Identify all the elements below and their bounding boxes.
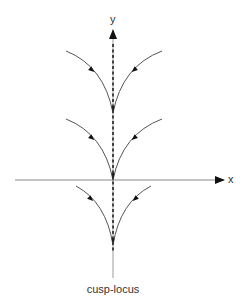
- cusp-phase-portrait: [0, 0, 243, 303]
- x-axis-label: x: [228, 174, 234, 185]
- cusp-locus-label: cusp-locus: [87, 284, 140, 295]
- flow-arrow-icon: [88, 134, 96, 142]
- cusp-family-middle: [66, 119, 162, 180]
- trajectory-upper-right: [113, 51, 162, 113]
- cusp-point-lower: [112, 238, 115, 246]
- flow-arrow-icon: [131, 195, 139, 203]
- trajectory-lower-right: [113, 186, 151, 245]
- flow-arrow-icon: [87, 195, 95, 203]
- y-axis-label: y: [110, 14, 116, 25]
- trajectory-middle-left: [66, 119, 113, 180]
- flow-arrow-icon: [88, 66, 96, 74]
- cusp-family-upper: [66, 51, 162, 113]
- trajectory-upper-left: [66, 51, 113, 113]
- trajectory-middle-right: [113, 119, 162, 180]
- trajectory-lower-left: [76, 186, 113, 245]
